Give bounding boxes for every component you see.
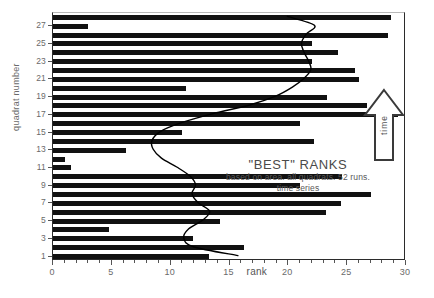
x-tick-mark [205,260,206,263]
time-arrow-label: time [379,115,389,135]
x-tick-mark [370,260,371,263]
x-tick-mark [229,260,230,265]
bar [53,121,300,126]
y-tick-label: 1 [41,251,46,261]
bar [53,165,71,170]
x-tick-mark [181,260,182,263]
bar [53,59,312,64]
bar [53,227,109,232]
bar [53,245,244,250]
x-tick-mark [334,260,335,263]
bar [53,148,126,153]
x-tick-mark [240,260,241,263]
chart-container: 13579111315171921232527 quadrat number 0… [0,0,434,298]
chart-title: "BEST" RANKS [212,157,384,172]
bar [53,77,359,82]
y-tick-label: 5 [41,215,46,225]
x-tick-mark [146,260,147,263]
bar [53,254,209,259]
bar [53,130,182,135]
chart-subtitle-line-1: based on area. all quadrats. 52 runs. [212,172,384,183]
bar [53,33,388,38]
x-tick-mark [264,260,265,263]
y-tick-label: 15 [36,127,46,137]
x-tick-mark [323,260,324,263]
bar [53,15,391,20]
x-tick-mark [311,260,312,263]
bar [53,41,312,46]
x-tick-mark [158,260,159,263]
x-tick-mark [134,260,135,263]
y-axis-title: quadrat number [11,47,21,147]
y-tick-label: 3 [41,233,46,243]
bar [53,24,88,29]
x-tick-mark [52,260,53,265]
x-tick-label: 0 [49,267,54,277]
x-tick-mark [252,260,253,263]
y-tick-label: 7 [41,197,46,207]
y-tick-label: 13 [36,144,46,154]
y-tick-label: 9 [41,180,46,190]
x-tick-mark [170,260,171,265]
x-tick-label: 30 [400,267,410,277]
x-tick-mark [99,260,100,263]
x-tick-mark [287,260,288,265]
x-axis: 051015202530rank [52,260,405,294]
x-tick-mark [358,260,359,263]
plot-area [52,12,405,260]
x-tick-mark [381,260,382,263]
y-tick-label: 25 [36,38,46,48]
x-tick-label: 10 [164,267,174,277]
bar [53,201,341,206]
y-axis: 13579111315171921232527 [0,12,52,260]
bar [53,50,338,55]
x-tick-mark [123,260,124,263]
bar [53,236,193,241]
bar [53,139,314,144]
y-tick-label: 23 [36,56,46,66]
x-axis-title: rank [247,266,267,277]
x-tick-mark [217,260,218,263]
bar [53,210,326,215]
x-tick-mark [299,260,300,263]
x-tick-mark [276,260,277,263]
time-arrow-label-wrap: time [362,88,406,162]
bar [53,103,367,108]
bar-series [53,13,404,259]
x-tick-label: 25 [341,267,351,277]
x-tick-label: 15 [223,267,233,277]
x-tick-label: 5 [108,267,113,277]
annotation-block: "BEST" RANKS based on area. all quadrats… [212,157,384,194]
bar [53,86,186,91]
x-tick-mark [405,260,406,265]
x-tick-mark [64,260,65,263]
x-tick-label: 20 [282,267,292,277]
y-tick-label: 19 [36,91,46,101]
x-tick-mark [193,260,194,263]
x-tick-mark [76,260,77,263]
y-tick-label: 21 [36,73,46,83]
x-tick-mark [393,260,394,263]
x-tick-mark [111,260,112,265]
bar [53,95,327,100]
y-tick-label: 27 [36,20,46,30]
x-tick-mark [87,260,88,263]
y-tick-label: 11 [37,162,46,172]
x-tick-mark [346,260,347,265]
time-arrow-icon: time [362,88,406,162]
bar [53,112,398,117]
y-tick-label: 17 [36,109,46,119]
bar [53,157,65,162]
bar [53,68,355,73]
bar [53,219,220,224]
chart-subtitle-line-2: time series [212,183,384,194]
